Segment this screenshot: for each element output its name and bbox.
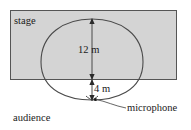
- cardioid-stage-diagram: stage 12 m 4 m microphone audience: [0, 0, 191, 130]
- stage-label: stage: [14, 16, 36, 27]
- dimension-label-4m: 4 m: [94, 84, 110, 95]
- dimension-label-12m: 12 m: [78, 45, 99, 56]
- microphone-leader-line: [96, 100, 126, 109]
- microphone-label: microphone: [127, 103, 177, 114]
- audience-label: audience: [13, 113, 50, 124]
